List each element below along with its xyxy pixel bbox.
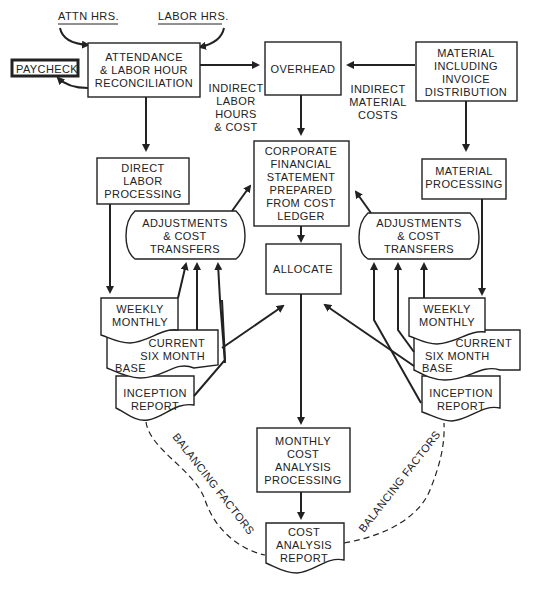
svg-text:& COST: & COST: [397, 230, 440, 242]
material-box: MATERIAL INCLUDING INVOICE DISTRIBUTION: [416, 42, 517, 101]
svg-text:RECONCILIATION: RECONCILIATION: [95, 77, 193, 89]
svg-text:MONTHLY: MONTHLY: [275, 435, 331, 447]
overhead-box: OVERHEAD: [265, 42, 341, 95]
svg-text:COST: COST: [287, 448, 319, 460]
indirect-labor-label: INDIRECT LABOR HOURS & COST: [208, 82, 263, 133]
svg-text:SIX MONTH: SIX MONTH: [425, 350, 490, 362]
svg-text:CURRENT: CURRENT: [148, 337, 205, 349]
svg-text:COSTS: COSTS: [358, 109, 398, 121]
svg-text:ANALYSIS: ANALYSIS: [275, 461, 331, 473]
labor-hrs-label: LABOR HRS.: [158, 10, 229, 24]
svg-text:BASE: BASE: [422, 362, 453, 374]
svg-text:MONTHLY: MONTHLY: [419, 316, 475, 328]
corporate-statement-box: CORPORATE FINANCIAL STATEMENT PREPARED F…: [254, 141, 349, 226]
svg-text:BASE: BASE: [115, 362, 146, 374]
svg-text:& LABOR HOUR: & LABOR HOUR: [100, 64, 188, 76]
adjustments-left: ADJUSTMENTS & COST TRANSFERS: [126, 211, 245, 259]
svg-text:REPORT: REPORT: [131, 400, 179, 412]
svg-text:TRANSFERS: TRANSFERS: [150, 243, 220, 255]
svg-text:LABOR: LABOR: [123, 175, 162, 187]
direct-labor-box: DIRECT LABOR PROCESSING: [97, 158, 189, 204]
svg-text:INCEPTION: INCEPTION: [429, 387, 493, 399]
paycheck-box: PAYCHECK: [12, 60, 78, 76]
svg-text:OVERHEAD: OVERHEAD: [271, 63, 336, 75]
attn-hrs-label: ATTN HRS.: [58, 10, 119, 24]
indirect-material-label: INDIRECT MATERIAL COSTS: [349, 83, 406, 121]
svg-text:INVOICE: INVOICE: [442, 73, 490, 85]
svg-text:PREPARED: PREPARED: [270, 184, 333, 196]
material-processing-box: MATERIAL PROCESSING: [422, 159, 506, 199]
svg-text:ATTENDANCE: ATTENDANCE: [105, 51, 183, 63]
svg-text:MATERIAL: MATERIAL: [435, 165, 492, 177]
attn-arrow: [60, 28, 88, 45]
svg-text:HOURS: HOURS: [215, 108, 257, 120]
svg-text:PAYCHECK: PAYCHECK: [16, 63, 78, 75]
svg-text:ATTN HRS.: ATTN HRS.: [58, 10, 119, 22]
balancing-right-label: BALANCING FACTORS: [356, 428, 443, 534]
svg-text:LABOR: LABOR: [216, 95, 255, 107]
svg-text:LEDGER: LEDGER: [277, 210, 325, 222]
right-inception-report: INCEPTION REPORT: [422, 376, 500, 421]
svg-text:PROCESSING: PROCESSING: [425, 178, 502, 190]
svg-text:CURRENT: CURRENT: [455, 337, 512, 349]
balancing-left-label: BALANCING FACTORS: [170, 431, 257, 537]
cost-accounting-flowchart: ATTN HRS. LABOR HRS. PAYCHECK ATTENDANCE…: [0, 0, 533, 591]
left-inception-report: INCEPTION REPORT: [116, 376, 194, 420]
monthly-processing-box: MONTHLY COST ANALYSIS PROCESSING: [257, 428, 350, 492]
allocate-box: ALLOCATE: [266, 244, 341, 294]
svg-text:INCLUDING: INCLUDING: [434, 60, 498, 72]
svg-text:ALLOCATE: ALLOCATE: [273, 263, 333, 275]
svg-text:PROCESSING: PROCESSING: [264, 474, 341, 486]
svg-text:ADJUSTMENTS: ADJUSTMENTS: [376, 217, 462, 229]
svg-text:DIRECT: DIRECT: [121, 162, 164, 174]
svg-text:INDIRECT: INDIRECT: [208, 82, 263, 94]
svg-text:DISTRIBUTION: DISTRIBUTION: [425, 86, 507, 98]
labor-arrow: [200, 28, 224, 47]
svg-text:& COST: & COST: [214, 121, 257, 133]
svg-text:LABOR HRS.: LABOR HRS.: [158, 10, 229, 22]
svg-text:CORPORATE: CORPORATE: [265, 145, 337, 157]
svg-text:WEEKLY: WEEKLY: [423, 303, 471, 315]
svg-text:MATERIAL: MATERIAL: [349, 96, 406, 108]
svg-text:FROM COST: FROM COST: [266, 197, 336, 209]
svg-text:COST: COST: [288, 526, 320, 538]
svg-text:INDIRECT: INDIRECT: [350, 83, 405, 95]
svg-text:ANALYSIS: ANALYSIS: [276, 539, 332, 551]
svg-text:& COST: & COST: [163, 230, 206, 242]
cost-analysis-report: COST ANALYSIS REPORT: [266, 523, 344, 573]
svg-text:REPORT: REPORT: [437, 400, 485, 412]
svg-text:TRANSFERS: TRANSFERS: [384, 243, 454, 255]
svg-text:REPORT: REPORT: [280, 552, 328, 564]
svg-text:MONTHLY: MONTHLY: [112, 316, 168, 328]
svg-text:FINANCIAL: FINANCIAL: [270, 158, 331, 170]
svg-text:MATERIAL: MATERIAL: [437, 47, 494, 59]
svg-text:STATEMENT: STATEMENT: [267, 171, 336, 183]
svg-text:INCEPTION: INCEPTION: [123, 387, 187, 399]
paycheck-arrow: [58, 78, 88, 88]
svg-text:ADJUSTMENTS: ADJUSTMENTS: [142, 217, 228, 229]
svg-text:PROCESSING: PROCESSING: [104, 188, 181, 200]
svg-text:WEEKLY: WEEKLY: [116, 303, 164, 315]
attendance-box: ATTENDANCE & LABOR HOUR RECONCILIATION: [88, 43, 200, 97]
svg-text:SIX MONTH: SIX MONTH: [140, 350, 205, 362]
adjustments-right: ADJUSTMENTS & COST TRANSFERS: [359, 213, 479, 259]
